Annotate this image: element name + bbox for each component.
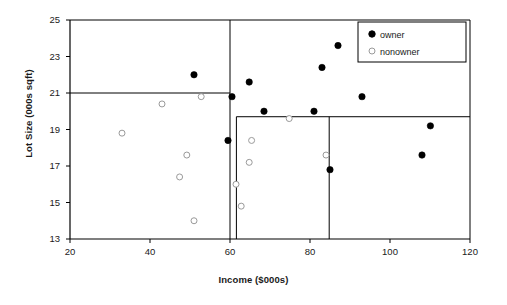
data-point-owner	[191, 72, 197, 78]
chart-legend: ownernonowner	[358, 22, 466, 62]
data-point-nonowner	[246, 159, 252, 165]
data-point-nonowner	[198, 94, 204, 100]
data-point-nonowner	[159, 101, 165, 107]
data-point-owner	[335, 42, 341, 48]
legend-marker-nonowner	[369, 48, 375, 54]
legend-label-nonowner: nonowner	[380, 47, 420, 57]
data-point-owner	[229, 93, 235, 99]
data-point-nonowner	[177, 174, 183, 180]
data-point-nonowner	[249, 137, 255, 143]
data-point-nonowner	[184, 152, 190, 158]
data-point-nonowner	[323, 152, 329, 158]
data-point-owner	[427, 123, 433, 129]
data-point-owner	[311, 108, 317, 114]
legend-label-owner: owner	[380, 30, 405, 40]
data-point-owner	[419, 152, 425, 158]
data-point-owner	[261, 108, 267, 114]
data-point-nonowner	[233, 181, 239, 187]
data-point-nonowner	[286, 116, 292, 122]
data-point-owner	[225, 137, 231, 143]
data-point-nonowner	[191, 218, 197, 224]
data-point-owner	[319, 64, 325, 70]
legend-marker-owner	[369, 31, 375, 37]
data-point-nonowner	[119, 130, 125, 136]
data-point-nonowner	[238, 203, 244, 209]
data-point-owner	[327, 166, 333, 172]
plot-area: ownernonowner	[0, 0, 507, 305]
data-point-owner	[359, 93, 365, 99]
scatter-chart-figure: Lot Size (000s sqft) Income ($000s) 1315…	[0, 0, 507, 305]
data-points	[119, 42, 434, 223]
data-point-owner	[246, 79, 252, 85]
